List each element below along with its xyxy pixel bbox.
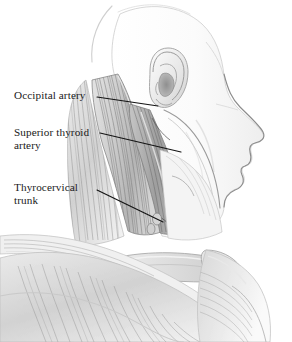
label-occipital-artery: Occipital artery — [14, 89, 85, 102]
label-thyrocervical-trunk: Thyrocervical trunk — [14, 181, 78, 206]
skull-outline — [92, 6, 112, 62]
label-superior-thyroid-artery: Superior thyroid artery — [14, 126, 89, 151]
anatomical-figure: Occipital artery Superior thyroid artery… — [0, 0, 292, 342]
trapezius-shoulder — [0, 235, 232, 342]
pectoral-chest — [198, 250, 271, 342]
anatomy-illustration — [0, 0, 292, 342]
